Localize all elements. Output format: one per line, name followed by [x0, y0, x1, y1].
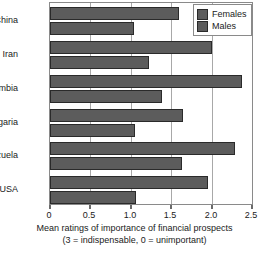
x-tick: [130, 205, 132, 209]
x-tick-label: 2.0: [196, 210, 226, 220]
chart-legend: Females Males: [193, 4, 252, 36]
bar-females: [50, 75, 242, 88]
y-axis-label-venezuela: Venezuela: [0, 150, 18, 160]
legend-label-males: Males: [212, 21, 236, 31]
bar-females: [50, 142, 235, 155]
x-tick-label: 1.0: [115, 210, 145, 220]
x-tick-label: 2.5: [236, 210, 266, 220]
bar-group: [50, 109, 252, 137]
bar-males: [50, 22, 134, 35]
x-tick-label: 1.5: [155, 210, 185, 220]
x-axis-title: Mean ratings of importance of financial …: [0, 223, 269, 234]
x-tick-label: 0.5: [74, 210, 104, 220]
y-axis-label-zambia: Zambia: [0, 83, 18, 93]
bar-males: [50, 90, 162, 103]
x-axis-title-subtext: (3 = indispensable, 0 = unimportant): [0, 235, 269, 246]
legend-item-females: Females: [197, 8, 247, 20]
legend-item-males: Males: [197, 20, 247, 32]
x-tick: [211, 205, 213, 209]
bar-males: [50, 124, 135, 137]
x-tick: [251, 205, 253, 209]
x-tick: [170, 205, 172, 209]
bar-chart: ChinaIranZambiaBulgariaVenezuelaUSA 00.5…: [0, 0, 269, 257]
y-axis-label-iran: Iran: [0, 49, 18, 59]
x-tick: [89, 205, 91, 209]
legend-swatch-females: [197, 9, 208, 20]
bar-males: [50, 56, 149, 69]
bar-males: [50, 157, 182, 170]
bar-group: [50, 75, 252, 103]
x-tick: [49, 205, 51, 209]
bar-females: [50, 41, 212, 54]
bar-group: [50, 142, 252, 170]
y-axis-label-china: China: [0, 15, 18, 25]
bar-males: [50, 191, 136, 204]
bar-females: [50, 109, 183, 122]
bar-females: [50, 176, 208, 189]
bar-group: [50, 41, 252, 69]
bar-group: [50, 176, 252, 204]
y-axis-label-bulgaria: Bulgaria: [0, 117, 18, 127]
x-tick-label: 0: [34, 210, 64, 220]
bar-females: [50, 7, 179, 20]
legend-label-females: Females: [212, 9, 247, 19]
y-axis-label-usa: USA: [0, 184, 18, 194]
legend-swatch-males: [197, 21, 208, 32]
